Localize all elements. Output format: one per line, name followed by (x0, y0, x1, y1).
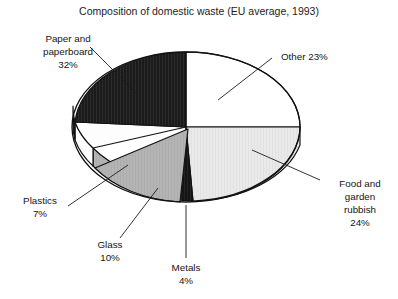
label-food-line3: rubbish (344, 204, 376, 215)
label-food-value: 24% (350, 217, 370, 228)
label-metals-line1: Metals (172, 262, 201, 273)
label-paper-line2: paperboard (43, 46, 93, 57)
pie-slice-paper-and-paperboard[interactable] (75, 52, 186, 127)
label-plastics: Plastics 7% (23, 195, 57, 219)
pie-chart-figure: Composition of domestic waste (EU averag… (0, 0, 398, 299)
label-plastics-line1: Plastics (23, 195, 57, 206)
label-paper-and-paperboard: Paper and paperboard 32% (43, 33, 93, 70)
label-metals: Metals 4% (172, 262, 201, 286)
label-other-line1: Other 23% (281, 51, 328, 62)
label-plastics-value: 7% (33, 208, 47, 219)
pie-slice-other[interactable] (186, 52, 300, 127)
label-food-and-garden-rubbish: Food and garden rubbish 24% (339, 178, 380, 228)
label-food-line2: garden (345, 191, 376, 202)
label-glass-line1: Glass (97, 239, 122, 250)
label-paper-value: 32% (58, 59, 78, 70)
label-glass-value: 10% (100, 252, 120, 263)
chart-title: Composition of domestic waste (EU averag… (79, 5, 319, 17)
label-glass: Glass 10% (97, 239, 122, 263)
label-other: Other 23% (281, 51, 328, 62)
label-food-line1: Food and (339, 178, 380, 189)
chart-canvas: Composition of domestic waste (EU averag… (0, 0, 398, 299)
label-metals-value: 4% (179, 275, 193, 286)
label-paper-line1: Paper and (45, 33, 90, 44)
